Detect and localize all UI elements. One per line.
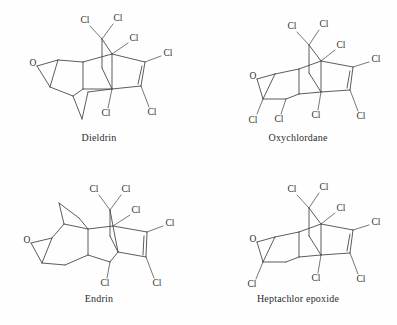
atom-label-chlorine: Cl [275, 114, 284, 124]
atom-label-chlorine: Cl [248, 279, 257, 289]
structure-drawing-oxychlordane: O Cl Cl Cl Cl Cl Cl Cl Cl [199, 0, 397, 135]
atom-label-chlorine: Cl [81, 15, 90, 25]
atom-label-chlorine: Cl [312, 110, 321, 120]
atom-label-chlorine: Cl [148, 107, 157, 117]
atom-label-chlorine: Cl [288, 184, 297, 194]
structure-panel-heptachlor-epoxide: O Cl Cl Cl Cl Cl Cl Cl Heptachlor epoxid… [199, 162, 397, 324]
atom-label-oxygen: O [250, 71, 257, 81]
structure-drawing-dieldrin: O Cl Cl Cl Cl Cl Cl [0, 0, 198, 135]
atom-label-oxygen: O [30, 58, 37, 68]
structure-drawing-heptachlor-epoxide: O Cl Cl Cl Cl Cl Cl Cl [199, 162, 397, 297]
atom-label-chlorine: Cl [122, 184, 131, 194]
atom-label-chlorine: Cl [288, 21, 297, 31]
atom-label-chlorine: Cl [372, 54, 381, 64]
atom-label-chlorine: Cl [166, 218, 175, 228]
structure-caption-endrin: Endrin [0, 293, 198, 304]
figure-sheet: O Cl Cl Cl Cl Cl Cl Dieldrin [0, 0, 397, 325]
atom-label-chlorine: Cl [320, 182, 329, 192]
atom-label-oxygen: O [24, 235, 31, 245]
atom-label-chlorine: Cl [372, 217, 381, 227]
atom-label-chlorine: Cl [337, 203, 346, 213]
structure-caption-dieldrin: Dieldrin [0, 132, 198, 143]
atom-label-chlorine: Cl [249, 115, 258, 125]
atom-label-chlorine: Cl [101, 278, 110, 288]
atom-label-oxygen: O [250, 234, 257, 244]
atom-label-chlorine: Cl [357, 111, 366, 121]
atom-label-chlorine: Cl [114, 13, 123, 23]
atom-label-chlorine: Cl [312, 273, 321, 283]
structure-drawing-endrin: O Cl Cl Cl Cl Cl Cl [0, 162, 198, 297]
structure-caption-oxychlordane: Oxychlordane [199, 132, 397, 143]
atom-label-chlorine: Cl [337, 40, 346, 50]
structure-caption-heptachlor-epoxide: Heptachlor epoxide [199, 293, 397, 304]
atom-label-chlorine: Cl [90, 184, 99, 194]
structure-panel-endrin: O Cl Cl Cl Cl Cl Cl Endrin [0, 162, 198, 324]
atom-label-chlorine: Cl [164, 48, 173, 58]
structure-panel-dieldrin: O Cl Cl Cl Cl Cl Cl Dieldrin [0, 0, 198, 162]
atom-label-chlorine: Cl [132, 205, 141, 215]
structure-panel-oxychlordane: O Cl Cl Cl Cl Cl Cl Cl Cl Oxychlordane [199, 0, 397, 162]
atom-label-chlorine: Cl [357, 274, 366, 284]
atom-label-chlorine: Cl [102, 108, 111, 118]
atom-label-chlorine: Cl [320, 19, 329, 29]
atom-label-chlorine: Cl [130, 33, 139, 43]
atom-label-chlorine: Cl [153, 278, 162, 288]
